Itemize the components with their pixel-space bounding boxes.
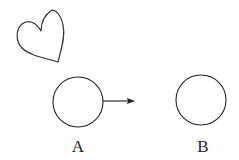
arrow-head-icon — [127, 98, 135, 104]
node-a-circle — [53, 77, 103, 127]
node-a-label: A — [72, 138, 84, 155]
node-b-label: B — [197, 138, 208, 155]
diagram-canvas — [0, 0, 239, 160]
heart-shape — [17, 10, 64, 62]
node-b-circle — [176, 75, 226, 125]
